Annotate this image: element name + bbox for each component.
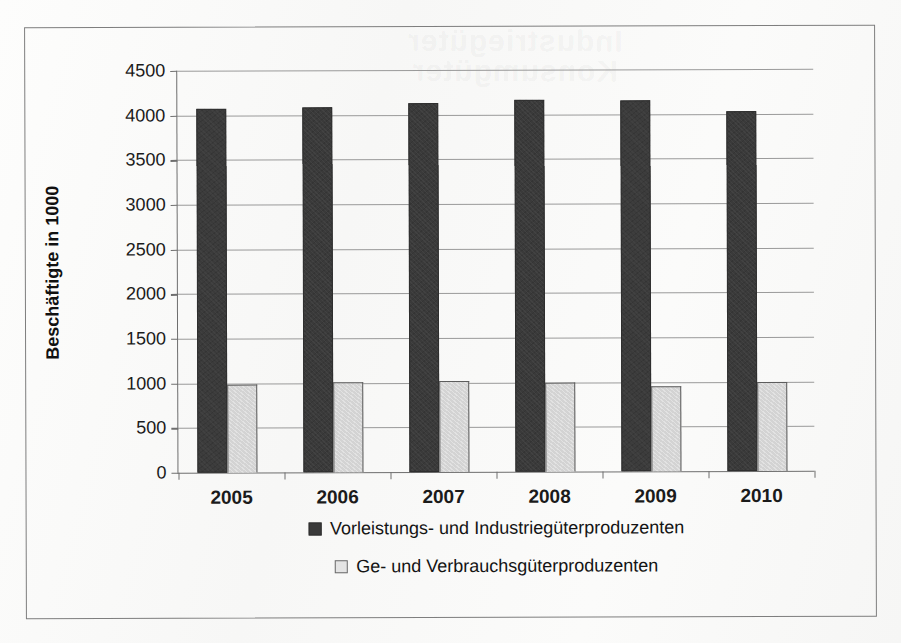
- y-axis-title-text: Beschäftigte in 1000: [42, 185, 64, 359]
- x-tick-label-2010: 2010: [740, 485, 782, 507]
- x-tick-mark: [496, 472, 497, 479]
- x-tick-label-2006: 2006: [316, 486, 358, 508]
- y-tick-label: 0: [156, 462, 166, 483]
- gridline: [178, 203, 814, 206]
- gridline: [178, 426, 814, 429]
- y-tick-mark: [171, 205, 178, 206]
- y-axis-line: [176, 71, 179, 473]
- y-tick-label: 1500: [126, 328, 166, 349]
- legend-swatch-dark-icon: [309, 522, 322, 535]
- x-tick-mark: [602, 472, 603, 479]
- x-tick-label-2008: 2008: [528, 486, 570, 508]
- x-tick-mark: [390, 472, 391, 479]
- bar-light-2005: [227, 385, 257, 473]
- y-tick-mark: [171, 294, 178, 295]
- bar-dark-2007: [408, 103, 439, 472]
- y-tick-label: 1000: [126, 373, 166, 394]
- bar-light-2009: [651, 386, 681, 471]
- legend-item-1[interactable]: Vorleistungs- und Industriegüterproduzen…: [179, 517, 815, 540]
- bar-light-2008: [545, 383, 575, 472]
- bar-dark-2010: [726, 111, 757, 471]
- bar-dark-2009: [620, 100, 651, 471]
- bar-light-2010: [757, 382, 787, 471]
- y-tick-mark: [171, 339, 178, 340]
- gridline: [178, 248, 814, 251]
- y-tick-label: 2000: [126, 284, 166, 305]
- x-tick-label-2009: 2009: [634, 485, 676, 507]
- y-tick-label: 3500: [125, 150, 165, 171]
- y-tick-mark: [171, 384, 178, 385]
- y-tick-mark: [170, 71, 177, 72]
- y-tick-label: 2500: [126, 239, 166, 260]
- x-tick-mark: [814, 471, 815, 478]
- y-tick-label: 3000: [126, 194, 166, 215]
- y-tick-mark: [171, 428, 178, 429]
- bar-dark-2006: [302, 107, 333, 472]
- x-tick-label-2005: 2005: [210, 487, 252, 509]
- gridlines: [177, 69, 813, 71]
- y-tick-mark: [171, 473, 178, 474]
- gridline: [177, 158, 813, 161]
- bar-chart: Beschäftigte in 1000 0500100015002000250…: [24, 25, 875, 618]
- gridline: [177, 114, 813, 117]
- legend-swatch-light-icon: [335, 560, 348, 573]
- bar-dark-2008: [514, 100, 545, 472]
- y-tick-mark: [171, 250, 178, 251]
- x-tick-mark: [178, 473, 179, 480]
- y-tick-mark: [170, 160, 177, 161]
- bar-light-2007: [439, 381, 469, 472]
- y-tick-label: 4000: [125, 105, 165, 126]
- x-tick-mark: [284, 473, 285, 480]
- x-tick-mark: [708, 471, 709, 478]
- legend-label: Vorleistungs- und Industriegüterproduzen…: [330, 517, 684, 539]
- gridline: [178, 382, 814, 385]
- plot-area: 050010001500200025003000350040004500 200…: [177, 69, 814, 473]
- y-axis-title: Beschäftigte in 1000: [38, 71, 67, 473]
- gridline: [178, 337, 814, 340]
- x-tick-label-2007: 2007: [422, 486, 464, 508]
- gridline: [178, 292, 814, 295]
- gridline: [177, 69, 813, 72]
- y-tick-label: 4500: [125, 60, 165, 81]
- y-tick-label: 500: [136, 418, 166, 439]
- legend-item-2[interactable]: Ge- und Verbrauchsgüterproduzenten: [179, 555, 815, 578]
- legend-label: Ge- und Verbrauchsgüterproduzenten: [356, 555, 658, 577]
- bar-light-2006: [333, 382, 363, 472]
- y-tick-mark: [170, 116, 177, 117]
- chart-legend: Vorleistungs- und Industriegüterproduzen…: [179, 517, 815, 595]
- bar-dark-2005: [196, 108, 227, 473]
